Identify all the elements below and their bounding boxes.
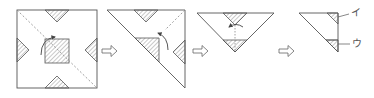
next-step-arrow-icon: [193, 46, 208, 57]
leader-line-i: [338, 14, 349, 17]
step-1-square: [17, 10, 97, 88]
hatched-center-square: [45, 39, 69, 63]
step-3-inverted-triangle: [197, 13, 274, 52]
next-step-arrow-icon: [102, 46, 117, 57]
next-step-arrow-icon: [279, 46, 294, 57]
folding-diagram: [0, 0, 374, 98]
label-i: イ: [351, 8, 361, 18]
step-2-triangle: [107, 10, 185, 88]
hatched-region-u: [326, 40, 338, 52]
hatched-triangle-middle: [135, 38, 159, 62]
label-u: ウ: [352, 39, 362, 49]
step-4-final-shape: [299, 13, 350, 52]
